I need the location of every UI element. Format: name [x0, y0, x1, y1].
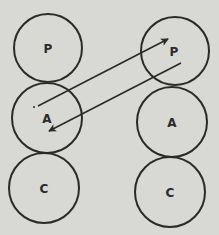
left-child-label: C	[40, 182, 49, 196]
left-parent-label: P	[44, 42, 53, 56]
pac-transaction-diagram: P A C P A C	[0, 0, 219, 235]
right-parent-label: P	[170, 45, 179, 59]
right-child-label: C	[166, 186, 175, 200]
left-adult-label: A	[42, 112, 52, 126]
response-arrow	[49, 63, 181, 131]
dot-mark	[33, 106, 35, 108]
right-adult-label: A	[167, 116, 177, 130]
